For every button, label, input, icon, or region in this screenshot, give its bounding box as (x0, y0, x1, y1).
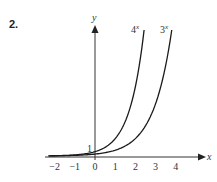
svg-text:1: 1 (113, 161, 118, 172)
y-axis-label: y (91, 12, 97, 23)
svg-text:4: 4 (173, 161, 178, 172)
svg-text:0: 0 (93, 161, 98, 172)
svg-text:−2: −2 (49, 161, 60, 172)
svg-text:3: 3 (153, 161, 158, 172)
svg-text:−1: −1 (69, 161, 80, 172)
label-4-to-x: 4x (131, 23, 140, 35)
y-axis-arrow-icon (92, 25, 99, 33)
exponential-chart: x y −2−101234 1 4x 3x (0, 0, 217, 182)
x-axis-arrow-icon (198, 154, 206, 161)
curve-3-to-x (49, 30, 172, 156)
curve-4-to-x (49, 30, 145, 156)
label-3-to-x: 3x (160, 23, 169, 35)
svg-text:2: 2 (133, 161, 138, 172)
x-axis-label: x (206, 151, 212, 162)
x-tick-labels: −2−101234 (49, 161, 178, 172)
